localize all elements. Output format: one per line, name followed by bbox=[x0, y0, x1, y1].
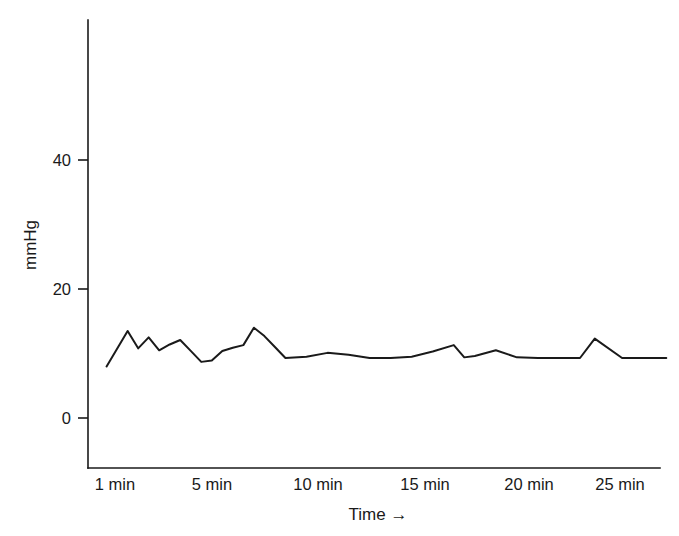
x-axis-title: Time → bbox=[349, 505, 408, 524]
x-tick-label-5min: 5 min bbox=[192, 475, 232, 493]
x-tick-label-20min: 20 min bbox=[504, 475, 554, 493]
x-tick-label-10min: 10 min bbox=[293, 475, 343, 493]
y-tick-label-40: 40 bbox=[53, 151, 71, 169]
x-tick-label-15min: 15 min bbox=[400, 475, 450, 493]
chart-container: 40 20 0 mmHg 1 min 5 min 10 min 15 min 2… bbox=[0, 0, 679, 536]
y-tick-label-0: 0 bbox=[62, 409, 71, 427]
line-chart: 40 20 0 mmHg 1 min 5 min 10 min 15 min 2… bbox=[0, 0, 679, 536]
x-axis-tick-labels: 1 min 5 min 10 min 15 min 20 min 25 min bbox=[95, 475, 645, 493]
y-axis-tick-labels: 40 20 0 bbox=[53, 151, 71, 427]
y-axis-title: mmHg bbox=[21, 220, 40, 270]
x-tick-label-25min: 25 min bbox=[595, 475, 645, 493]
y-tick-label-20: 20 bbox=[53, 280, 71, 298]
data-series-line bbox=[107, 328, 667, 367]
y-axis-ticks bbox=[78, 160, 88, 418]
x-tick-label-1min: 1 min bbox=[95, 475, 135, 493]
